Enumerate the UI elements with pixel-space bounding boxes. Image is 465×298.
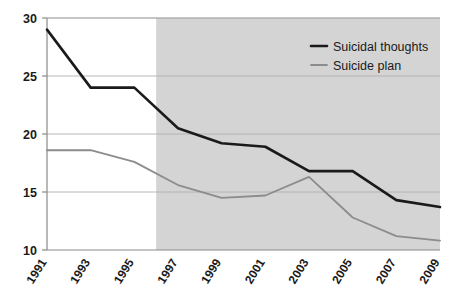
x-tick-label-1995: 1995 xyxy=(111,256,137,286)
line-chart: 1015202530 19911993199519971999200120032… xyxy=(0,0,465,298)
x-tick-label-1991: 1991 xyxy=(24,256,50,286)
x-tick-label-2003: 2003 xyxy=(286,256,312,286)
x-axis-tick-labels: 1991199319951997199920012003200520072009 xyxy=(24,256,443,286)
x-tick-label-1993: 1993 xyxy=(67,256,93,286)
y-tick-label-10: 10 xyxy=(23,244,37,258)
y-tick-label-30: 30 xyxy=(23,12,37,26)
y-tick-label-15: 15 xyxy=(23,186,37,200)
legend-label-suicide-plan: Suicide plan xyxy=(333,59,401,73)
x-tick-label-2005: 2005 xyxy=(329,256,355,286)
x-tick-label-2009: 2009 xyxy=(417,256,443,286)
legend-label-suicidal-thoughts: Suicidal thoughts xyxy=(333,40,428,54)
y-axis-tick-labels: 1015202530 xyxy=(23,12,37,258)
chart-container: 1015202530 19911993199519971999200120032… xyxy=(0,0,465,298)
y-axis-ticks xyxy=(42,18,47,250)
y-tick-label-20: 20 xyxy=(23,128,37,142)
x-tick-label-1999: 1999 xyxy=(198,256,224,286)
x-tick-label-2007: 2007 xyxy=(373,256,399,286)
x-tick-label-2001: 2001 xyxy=(242,256,268,286)
x-tick-label-1997: 1997 xyxy=(155,256,181,286)
y-tick-label-25: 25 xyxy=(23,70,37,84)
